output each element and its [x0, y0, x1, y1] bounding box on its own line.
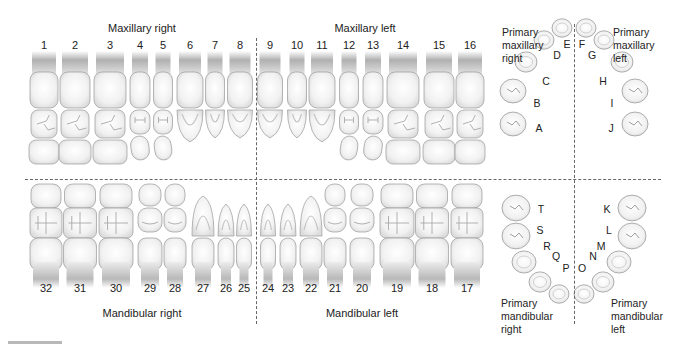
tooth-number: 23	[282, 282, 294, 294]
tooth-13	[362, 51, 383, 161]
label-line: Primary	[501, 297, 553, 310]
tooth-32	[30, 184, 62, 288]
primary-tooth-M	[607, 251, 631, 273]
maxillary-right-label: Maxillary right	[108, 22, 176, 34]
primary-tooth-letter: F	[579, 38, 585, 50]
tooth-20	[350, 184, 374, 288]
tooth-7	[206, 51, 225, 138]
tooth-4	[129, 51, 150, 161]
tooth-number: 25	[238, 282, 250, 294]
primary-tooth-letter: R	[543, 240, 551, 252]
tooth-17	[451, 184, 483, 288]
tooth-15	[423, 51, 455, 164]
primary-tooth-K	[618, 195, 646, 221]
primary-tooth-letter: Q	[552, 250, 560, 262]
midline-divider-primary	[574, 24, 575, 324]
primary-tooth-T	[502, 195, 530, 221]
tooth-number: 26	[220, 282, 232, 294]
tooth-31	[64, 184, 97, 288]
tooth-3	[93, 51, 127, 164]
tooth-14	[386, 51, 420, 164]
primary-tooth-Q	[529, 272, 551, 292]
primary-tooth-letter: L	[606, 224, 612, 236]
primary-tooth-letter: P	[562, 262, 569, 274]
primary-tooth-O	[574, 285, 594, 303]
tooth-19	[380, 184, 414, 288]
tooth-number: 14	[397, 39, 409, 51]
primary-tooth-letter: B	[533, 97, 540, 109]
tooth-6	[177, 51, 203, 142]
tooth-number: 21	[329, 282, 341, 294]
label-line: Primary	[502, 26, 543, 39]
scale-bar	[8, 341, 62, 344]
label-line: Primary	[611, 297, 663, 310]
tooth-number: 22	[305, 282, 317, 294]
primary-tooth-letter: D	[553, 49, 561, 61]
primary-mandibular-left-label: Primary mandibular left	[611, 297, 663, 336]
tooth-30	[99, 184, 133, 288]
tooth-12	[339, 51, 359, 161]
tooth-23	[280, 204, 296, 288]
tooth-number: 2	[72, 39, 78, 51]
label-line: mandibular	[501, 310, 553, 323]
tooth-number: 28	[169, 282, 181, 294]
tooth-number: 20	[356, 282, 368, 294]
primary-tooth-letter: M	[597, 240, 606, 252]
midline-divider-permanent	[256, 38, 257, 324]
primary-tooth-R	[512, 251, 536, 273]
dentition-diagram	[0, 0, 683, 350]
tooth-27	[192, 196, 214, 288]
tooth-number: 1	[41, 39, 47, 51]
tooth-29	[138, 184, 162, 288]
mandibular-left-label: Mandibular left	[326, 307, 398, 319]
tooth-number: 5	[160, 39, 166, 51]
primary-tooth-J	[622, 112, 648, 136]
tooth-number: 6	[187, 39, 193, 51]
tooth-number: 12	[343, 39, 355, 51]
primary-tooth-letter: S	[536, 224, 543, 236]
primary-tooth-letter: J	[608, 122, 613, 134]
primary-tooth-N	[592, 272, 614, 292]
maxillary-left-label: Maxillary left	[334, 22, 395, 34]
primary-tooth-letter: H	[599, 75, 607, 87]
tooth-number: 18	[426, 282, 438, 294]
primary-maxillary-right-label: Primary maxillary right	[502, 26, 543, 65]
tooth-number: 19	[391, 282, 403, 294]
occlusal-divider	[25, 179, 661, 180]
label-line: left	[613, 52, 654, 65]
tooth-18	[416, 184, 449, 288]
mandibular-right-label: Mandibular right	[103, 307, 182, 319]
primary-mandibular-right-label: Primary mandibular right	[501, 297, 553, 336]
label-line: maxillary	[502, 39, 543, 52]
tooth-number: 9	[267, 39, 273, 51]
primary-tooth-B	[500, 79, 526, 103]
tooth-number: 13	[367, 39, 379, 51]
tooth-number: 11	[316, 39, 327, 51]
tooth-28	[164, 184, 186, 288]
tooth-5	[153, 51, 173, 161]
tooth-number: 4	[137, 39, 143, 51]
tooth-number: 30	[110, 282, 122, 294]
tooth-number: 29	[144, 282, 156, 294]
tooth-number: 17	[461, 282, 473, 294]
tooth-number: 24	[262, 282, 274, 294]
tooth-number: 7	[212, 39, 218, 51]
primary-tooth-G	[594, 31, 614, 49]
tooth-26	[218, 204, 234, 288]
primary-tooth-letter: E	[563, 38, 570, 50]
tooth-10	[288, 51, 307, 138]
primary-tooth-letter: G	[588, 49, 596, 61]
primary-tooth-E	[552, 19, 572, 37]
tooth-9	[258, 51, 283, 138]
primary-tooth-F	[576, 19, 596, 37]
tooth-11	[309, 51, 335, 142]
tooth-number: 32	[40, 282, 52, 294]
tooth-number: 3	[107, 39, 113, 51]
label-line: mandibular	[611, 310, 663, 323]
tooth-24	[261, 204, 276, 288]
primary-tooth-L	[618, 223, 646, 249]
label-line: left	[611, 323, 663, 336]
primary-tooth-S	[502, 223, 530, 249]
tooth-number: 27	[197, 282, 209, 294]
primary-tooth-letter: K	[603, 203, 610, 215]
